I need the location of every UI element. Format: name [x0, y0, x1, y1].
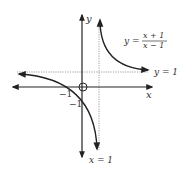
x-axis-label: x	[146, 89, 152, 100]
vertical-asymptote-label: x = 1	[89, 155, 113, 165]
graph: y x y = x + 1 x − 1 y = 1 x = 1 −1 −1	[0, 0, 182, 171]
equation-denominator: x − 1	[143, 41, 164, 50]
y-tick-label: −1	[69, 99, 82, 109]
curve-left-branch	[19, 74, 97, 149]
x-tick-label: −1	[59, 89, 72, 99]
equation-lhs: y =	[123, 36, 140, 46]
horizontal-asymptote-label: y = 1	[153, 67, 178, 77]
equation-numerator: x + 1	[143, 31, 164, 40]
y-axis-label: y	[85, 13, 92, 24]
